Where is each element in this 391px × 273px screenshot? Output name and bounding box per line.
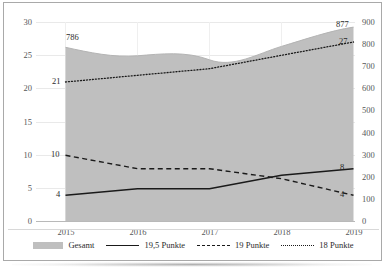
y-axis-right-tick-200: 200 [362, 173, 388, 182]
legend-item-19-punkte[interactable]: 19 Punkte [197, 241, 269, 250]
data-label-19-5-punkte-2015: 4 [56, 190, 60, 199]
drop-shadow [12, 262, 372, 267]
chart-frame: 30 25 20 15 10 5 0 900 800 700 600 500 4… [3, 2, 382, 261]
data-label-gesamt-2019: 877 [336, 20, 349, 29]
legend-label-18-punkte: 18 Punkte [319, 241, 353, 250]
chart-canvas [36, 22, 355, 222]
y-axis-left-tick-30: 30 [8, 18, 32, 27]
data-label-19-punkte-2019: 4 [340, 190, 344, 199]
legend-item-19-5-punkte[interactable]: 19,5 Punkte [106, 241, 185, 250]
solid-line-swatch-icon [106, 245, 139, 246]
y-axis-right-tick-800: 800 [362, 40, 388, 49]
legend-item-gesamt[interactable]: Gesamt [33, 241, 94, 250]
legend-label-19-punkte: 19 Punkte [235, 241, 269, 250]
y-axis-right-tick-0: 0 [362, 217, 388, 226]
y-axis-right-tick-300: 300 [362, 151, 388, 160]
legend-label-gesamt: Gesamt [68, 241, 94, 250]
y-axis-right-tick-100: 100 [362, 195, 388, 204]
y-axis-left-tick-10: 10 [8, 151, 32, 160]
data-label-gesamt-2015: 786 [66, 33, 79, 42]
y-axis-right-tick-700: 700 [362, 62, 388, 71]
y-axis-left-tick-25: 25 [8, 51, 32, 60]
y-axis-right-tick-900: 900 [362, 18, 388, 27]
data-label-18-punkte-2015: 21 [52, 77, 61, 86]
legend-item-18-punkte[interactable]: 18 Punkte [281, 241, 353, 250]
y-axis-left-tick-5: 5 [8, 184, 32, 193]
y-axis-right-tick-600: 600 [362, 84, 388, 93]
plot-area: 30 25 20 15 10 5 0 900 800 700 600 500 4… [36, 22, 355, 222]
data-label-18-punkte-2019: 27 [339, 37, 348, 46]
chart-legend: Gesamt 19,5 Punkte 19 Punkte 18 Punkte [8, 231, 379, 259]
area-swatch-icon [33, 242, 63, 249]
y-axis-left-tick-15: 15 [8, 118, 32, 127]
y-axis-left-tick-20: 20 [8, 84, 32, 93]
legend-divider [8, 229, 379, 230]
y-axis-left-tick-0: 0 [8, 217, 32, 226]
dotted-line-swatch-icon [281, 245, 314, 246]
dashed-line-swatch-icon [197, 245, 230, 246]
y-axis-right-tick-400: 400 [362, 129, 388, 138]
data-label-19-punkte-2015: 10 [51, 150, 60, 159]
y-axis-right-tick-500: 500 [362, 106, 388, 115]
legend-label-19-5-punkte: 19,5 Punkte [144, 241, 185, 250]
data-label-19-5-punkte-2019: 8 [340, 163, 344, 172]
